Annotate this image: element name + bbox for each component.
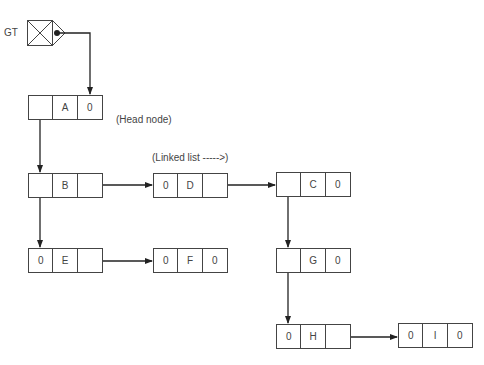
node-g-next-cell: 0 bbox=[326, 249, 350, 272]
node-f-data-cell: F bbox=[178, 249, 202, 272]
node-f: 0 F 0 bbox=[153, 248, 228, 273]
node-b-data-cell: B bbox=[53, 174, 77, 197]
node-d-data-cell: D bbox=[178, 174, 202, 197]
node-h-next-cell bbox=[326, 325, 350, 348]
gt-label: GT bbox=[4, 27, 18, 38]
node-c-next-cell: 0 bbox=[326, 173, 350, 196]
node-e: 0 E bbox=[28, 248, 103, 273]
node-e-data-cell: E bbox=[53, 249, 77, 272]
node-i-data-cell: I bbox=[423, 324, 447, 347]
linked-list-annotation: (Linked list ----->) bbox=[152, 152, 228, 163]
node-a-link-cell bbox=[29, 96, 53, 119]
edge-gt-a bbox=[57, 33, 90, 94]
node-e-link-cell: 0 bbox=[29, 249, 53, 272]
node-i-link-cell: 0 bbox=[399, 324, 423, 347]
node-g: G 0 bbox=[276, 248, 351, 273]
node-i: 0 I 0 bbox=[398, 323, 473, 348]
node-a-data-cell: A bbox=[53, 96, 77, 119]
node-f-link-cell: 0 bbox=[154, 249, 178, 272]
node-d-link-cell: 0 bbox=[154, 174, 178, 197]
node-h: 0 H bbox=[276, 324, 351, 349]
node-c: C 0 bbox=[276, 172, 351, 197]
node-h-data-cell: H bbox=[301, 325, 325, 348]
node-h-link-cell: 0 bbox=[277, 325, 301, 348]
node-b: B bbox=[28, 173, 103, 198]
node-g-data-cell: G bbox=[301, 249, 325, 272]
node-i-next-cell: 0 bbox=[448, 324, 472, 347]
node-a: A 0 bbox=[28, 95, 103, 120]
node-d: 0 D bbox=[153, 173, 228, 198]
linked-list-diagram: GT (Head node) (Linked list ----->) A 0 … bbox=[0, 0, 484, 365]
node-e-next-cell bbox=[78, 249, 102, 272]
node-c-link-cell bbox=[277, 173, 301, 196]
node-f-next-cell: 0 bbox=[203, 249, 227, 272]
node-c-data-cell: C bbox=[301, 173, 325, 196]
head-node-annotation: (Head node) bbox=[116, 114, 172, 125]
node-b-link-cell bbox=[29, 174, 53, 197]
node-a-next-cell: 0 bbox=[78, 96, 102, 119]
node-d-next-cell bbox=[203, 174, 227, 197]
node-g-link-cell bbox=[277, 249, 301, 272]
node-b-next-cell bbox=[78, 174, 102, 197]
